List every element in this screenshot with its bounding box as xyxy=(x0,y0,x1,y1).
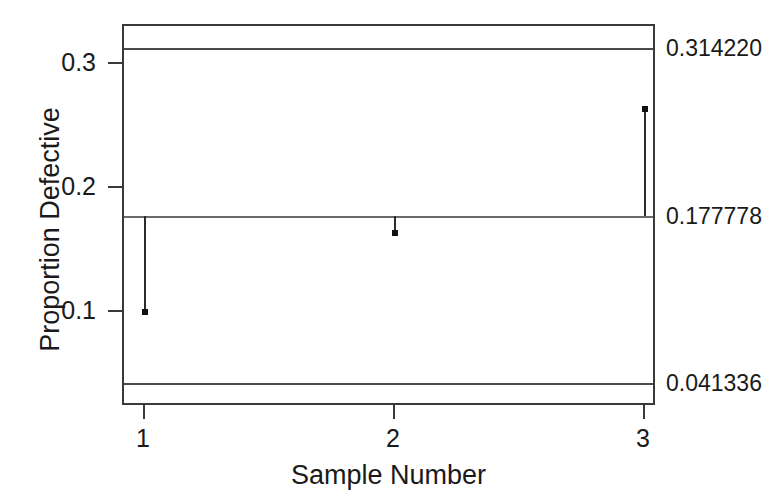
x-tick-mark-3 xyxy=(643,405,645,419)
stem-sample-3 xyxy=(644,109,646,216)
data-point-sample-1 xyxy=(142,309,148,315)
x-tick-mark-1 xyxy=(143,405,145,419)
x-tick-label-3: 3 xyxy=(636,424,650,453)
upper-control-limit-line xyxy=(124,48,653,50)
data-point-sample-3 xyxy=(642,106,648,112)
x-tick-label-1: 1 xyxy=(136,424,150,453)
y-tick-label-0p2: 0.2 xyxy=(61,172,96,201)
lower-control-limit-label: 0.041336 xyxy=(666,370,762,397)
x-tick-label-2: 2 xyxy=(386,424,400,453)
upper-control-limit-label: 0.314220 xyxy=(666,35,762,62)
x-axis-title: Sample Number xyxy=(122,460,655,491)
data-point-sample-2 xyxy=(392,230,398,236)
center-line xyxy=(124,216,653,218)
plot-area xyxy=(122,24,655,405)
lower-control-limit-line xyxy=(124,383,653,385)
control-chart-figure: Proportion Defective 0.3 0.2 0.1 0.31422… xyxy=(0,0,768,502)
y-tick-label-0p3: 0.3 xyxy=(61,48,96,77)
y-axis-title: Proportion Defective xyxy=(35,60,66,400)
y-tick-label-0p1: 0.1 xyxy=(61,296,96,325)
y-tick-mark-0p2 xyxy=(108,186,122,188)
x-tick-mark-2 xyxy=(393,405,395,419)
y-tick-mark-0p1 xyxy=(108,310,122,312)
y-tick-mark-0p3 xyxy=(108,62,122,64)
stem-sample-1 xyxy=(144,216,146,312)
center-line-label: 0.177778 xyxy=(666,203,762,230)
